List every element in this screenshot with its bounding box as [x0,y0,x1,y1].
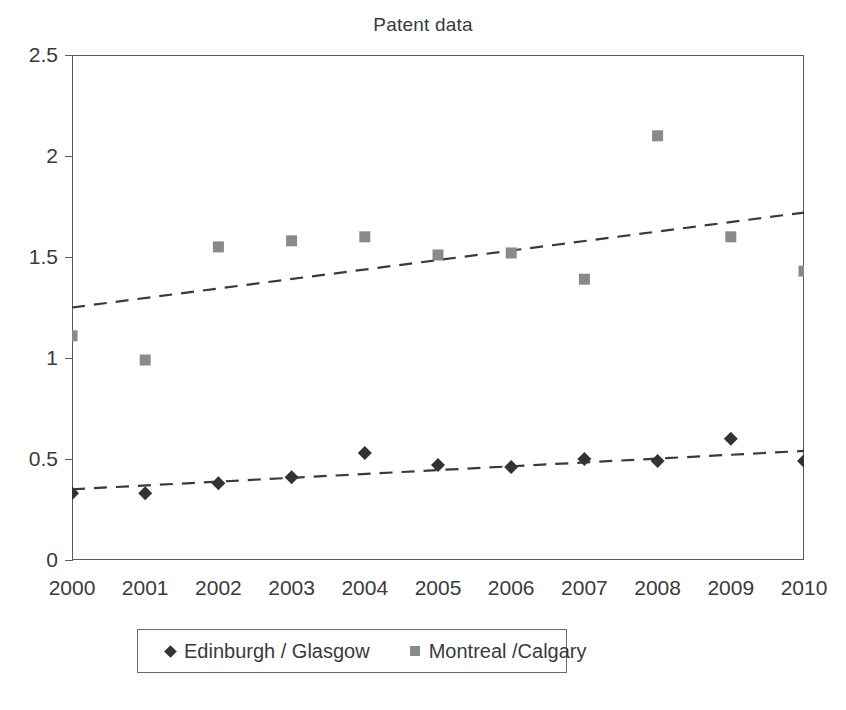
data-point-square [359,231,370,242]
y-axis-labels: 00.511.522.5 [0,55,58,560]
x-tick-label: 2006 [488,576,535,600]
legend-item-edinburgh-glasgow: Edinburgh / Glasgow [166,640,370,663]
data-point-diamond [651,454,665,468]
data-point-square [652,130,663,141]
chart-title: Patent data [0,14,846,36]
data-point-diamond [724,432,738,446]
legend-label-montreal-calgary: Montreal /Calgary [429,640,587,663]
y-tick-label: 0 [46,548,58,572]
legend-item-montreal-calgary: Montreal /Calgary [410,640,587,663]
square-marker-icon [410,646,420,656]
x-tick-label: 2009 [707,576,754,600]
legend-label-edinburgh-glasgow: Edinburgh / Glasgow [184,640,370,663]
y-tick-label: 2.5 [29,43,58,67]
x-tick-label: 2010 [781,576,828,600]
data-point-diamond [138,486,152,500]
data-point-square [799,266,805,277]
x-tick-label: 2002 [195,576,242,600]
x-tick-label: 2001 [122,576,169,600]
data-point-diamond [577,452,591,466]
patent-data-chart: Patent data 00.511.522.5 200020012002200… [0,0,846,710]
data-point-square [506,247,517,258]
y-tick-label: 1 [46,346,58,370]
data-point-diamond [797,454,804,468]
y-tick-mark [65,560,73,561]
x-axis-labels: 2000200120022003200420052006200720082009… [72,576,804,606]
data-point-square [579,274,590,285]
data-point-diamond [211,476,225,490]
diamond-marker-icon [164,645,177,658]
x-tick-label: 2007 [561,576,608,600]
data-point-square [140,355,151,366]
y-tick-label: 2 [46,144,58,168]
plot-area [72,55,804,560]
y-tick-mark [65,358,73,359]
data-point-square [72,330,78,341]
data-point-diamond [358,446,372,460]
data-layer [72,55,804,560]
y-tick-mark [65,459,73,460]
data-point-square [725,231,736,242]
data-point-square [286,235,297,246]
y-tick-mark [65,55,73,56]
data-point-square [433,249,444,260]
x-tick-label: 2003 [268,576,315,600]
chart-legend: Edinburgh / Glasgow Montreal /Calgary [137,629,567,673]
x-tick-label: 2008 [634,576,681,600]
data-point-square [213,241,224,252]
x-tick-label: 2004 [341,576,388,600]
y-tick-mark [65,156,73,157]
y-tick-label: 1.5 [29,245,58,269]
x-tick-label: 2005 [415,576,462,600]
y-tick-label: 0.5 [29,447,58,471]
x-tick-label: 2000 [49,576,96,600]
y-tick-mark [65,257,73,258]
data-point-diamond [285,470,299,484]
data-point-diamond [504,460,518,474]
